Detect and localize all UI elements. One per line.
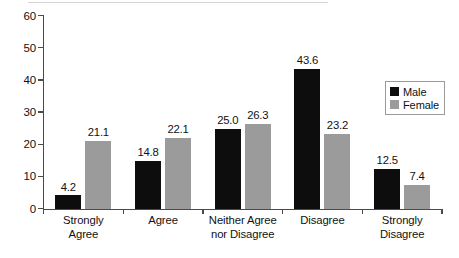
bar-value-label: 4.2 <box>49 181 87 193</box>
y-axis-tick-label: 20 <box>0 138 36 150</box>
y-axis-tick <box>38 47 43 48</box>
bar-female <box>324 134 350 209</box>
bar-female <box>85 141 111 209</box>
y-axis-tick-label: 10 <box>0 170 36 182</box>
bar-female <box>165 138 191 209</box>
category-label: Agree <box>123 214 203 228</box>
legend-swatch-female-icon <box>390 100 399 109</box>
bar-female <box>404 185 430 209</box>
y-axis-tick-label: 30 <box>0 106 36 118</box>
y-axis-tick <box>38 15 43 16</box>
bar-male <box>294 69 320 209</box>
y-axis-tick-label: 0 <box>0 203 36 215</box>
category-label: Disagree <box>283 214 363 228</box>
category-label-line: nor Disagree <box>203 228 283 242</box>
category-label-line: Disagree <box>283 214 363 228</box>
category-label: StronglyAgree <box>44 214 124 241</box>
bar-male <box>374 169 400 209</box>
y-axis-tick-label: 60 <box>0 10 36 22</box>
legend-item-female: Female <box>390 98 439 111</box>
category-label: Neither Agreenor Disagree <box>203 214 283 241</box>
y-axis-tick <box>38 79 43 80</box>
bar-male <box>55 195 81 209</box>
bar-male <box>215 129 241 209</box>
bar-value-label: 7.4 <box>398 170 436 182</box>
category-label-line: Agree <box>44 228 124 242</box>
category-label: StronglyDisagree <box>362 214 442 241</box>
bar-value-label: 21.1 <box>79 126 117 138</box>
legend-item-male: Male <box>390 85 439 98</box>
bar-value-label: 26.3 <box>239 109 277 121</box>
bar-value-label: 14.8 <box>129 146 167 158</box>
bar-female <box>245 124 271 209</box>
y-axis-tick <box>38 144 43 145</box>
bar-value-label: 43.6 <box>288 54 326 66</box>
bar-value-label: 12.5 <box>368 154 406 166</box>
bar-chart: 0102030405060 4.221.114.822.125.026.343.… <box>0 0 459 258</box>
category-label-line: Strongly <box>362 214 442 228</box>
category-label-line: Agree <box>123 214 203 228</box>
legend-label-male: Male <box>403 86 426 98</box>
bar-male <box>135 161 161 209</box>
category-label-line: Strongly <box>44 214 124 228</box>
top-divider-rule <box>28 2 328 3</box>
bar-value-label: 23.2 <box>318 119 356 131</box>
category-label-line: Neither Agree <box>203 214 283 228</box>
y-axis-tick-label: 50 <box>0 42 36 54</box>
chart-legend: Male Female <box>385 81 445 115</box>
y-axis-tick <box>38 111 43 112</box>
y-axis-tick-label: 40 <box>0 74 36 86</box>
category-label-line: Disagree <box>362 228 442 242</box>
legend-label-female: Female <box>403 99 439 111</box>
legend-swatch-male-icon <box>390 87 399 96</box>
bar-value-label: 22.1 <box>159 123 197 135</box>
y-axis-tick <box>38 176 43 177</box>
